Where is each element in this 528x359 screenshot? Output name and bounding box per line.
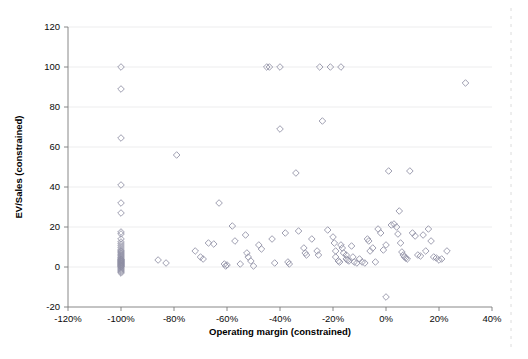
y-tick-label: 120 bbox=[44, 21, 60, 32]
data-point-marker bbox=[335, 258, 342, 265]
data-point-marker bbox=[336, 259, 343, 266]
data-point-marker bbox=[271, 260, 278, 267]
x-tick-label: 0% bbox=[379, 313, 393, 324]
y-tick-label: 0 bbox=[55, 261, 60, 272]
data-point-marker bbox=[462, 80, 469, 87]
data-point-marker bbox=[232, 238, 239, 245]
data-point-marker bbox=[330, 234, 337, 241]
data-point-marker bbox=[118, 135, 125, 142]
data-point-marker bbox=[229, 223, 236, 230]
data-point-marker bbox=[293, 170, 300, 177]
data-point-marker bbox=[155, 257, 162, 264]
data-point-marker bbox=[118, 210, 125, 217]
data-point-marker bbox=[396, 208, 403, 215]
data-point-marker bbox=[395, 231, 402, 238]
data-point-marker bbox=[163, 260, 170, 267]
x-tick-label: -80% bbox=[163, 313, 186, 324]
data-point-marker bbox=[338, 242, 345, 249]
scatter-chart: -20020406080100120 -120%-100%-80%-60%-40… bbox=[0, 0, 528, 359]
data-point-marker bbox=[277, 126, 284, 133]
data-point-marker bbox=[242, 232, 249, 239]
data-point-marker bbox=[210, 241, 217, 248]
data-point-marker bbox=[118, 200, 125, 207]
data-point-marker bbox=[256, 242, 263, 249]
data-point-marker bbox=[324, 227, 331, 234]
data-point-marker bbox=[216, 200, 223, 207]
data-point-marker bbox=[205, 240, 212, 247]
data-point-marker bbox=[397, 240, 404, 247]
data-point-marker bbox=[422, 248, 429, 255]
y-tick-label: 80 bbox=[49, 101, 60, 112]
x-tick-label: -60% bbox=[216, 313, 239, 324]
x-tick-label: -20% bbox=[322, 313, 345, 324]
x-tick-label: -100% bbox=[107, 313, 135, 324]
chart-svg: -20020406080100120 -120%-100%-80%-60%-40… bbox=[0, 0, 528, 359]
data-point-marker bbox=[258, 246, 265, 253]
data-point-marker bbox=[118, 231, 125, 238]
x-axis: -120%-100%-80%-60%-40%-20%0%20%40% bbox=[54, 307, 502, 324]
data-point-marker bbox=[269, 236, 276, 243]
y-axis-title: EV/Sales (constrained) bbox=[13, 116, 24, 219]
data-point-marker bbox=[173, 152, 180, 159]
data-point-marker bbox=[444, 248, 451, 255]
x-tick-label: -120% bbox=[54, 313, 82, 324]
y-tick-label: 100 bbox=[44, 61, 60, 72]
data-point-marker bbox=[237, 261, 244, 268]
gridlines bbox=[68, 27, 492, 267]
y-tick-label: 40 bbox=[49, 181, 60, 192]
data-point-marker bbox=[295, 228, 302, 235]
y-tick-label: 20 bbox=[49, 221, 60, 232]
data-points bbox=[118, 64, 469, 301]
data-point-marker bbox=[377, 230, 384, 237]
data-point-marker bbox=[428, 238, 435, 245]
x-tick-label: 40% bbox=[482, 313, 502, 324]
x-axis-title: Operating margin (constrained) bbox=[209, 326, 351, 337]
x-tick-label: 20% bbox=[429, 313, 449, 324]
data-point-marker bbox=[331, 240, 338, 247]
data-point-marker bbox=[348, 243, 355, 250]
data-point-marker bbox=[372, 259, 379, 266]
y-tick-label: -20 bbox=[46, 301, 60, 312]
data-point-marker bbox=[282, 230, 289, 237]
x-tick-label: -40% bbox=[269, 313, 292, 324]
data-point-marker bbox=[383, 294, 390, 301]
y-tick-label: 60 bbox=[49, 141, 60, 152]
data-point-marker bbox=[118, 86, 125, 93]
data-point-marker bbox=[319, 118, 326, 125]
data-point-marker bbox=[407, 168, 414, 175]
y-axis: -20020406080100120 bbox=[44, 21, 68, 312]
data-point-marker bbox=[118, 229, 125, 236]
data-point-marker bbox=[385, 168, 392, 175]
data-point-marker bbox=[420, 232, 427, 239]
data-point-marker bbox=[309, 236, 316, 243]
data-point-marker bbox=[192, 248, 199, 255]
